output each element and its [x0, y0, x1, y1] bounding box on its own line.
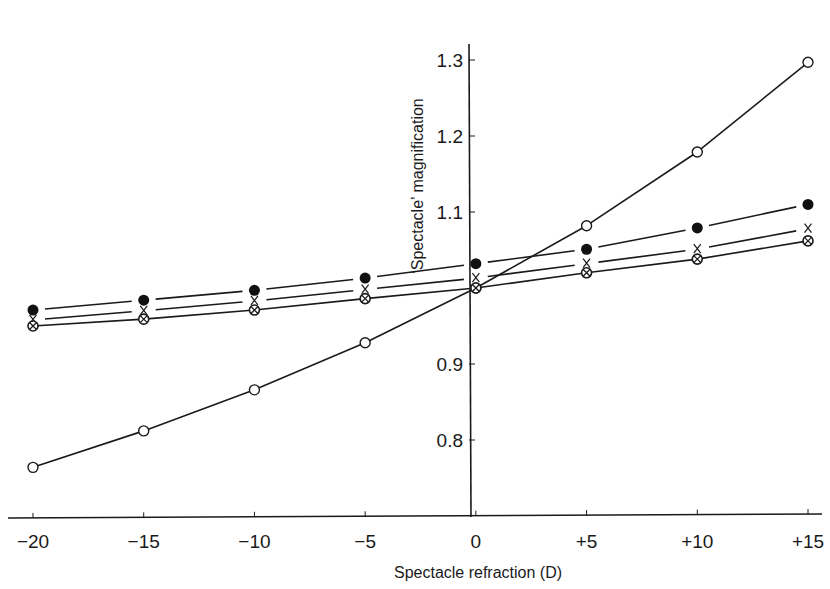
y-tick-label: 1.2: [437, 126, 463, 147]
filled-circle-marker: [28, 305, 39, 316]
open-circle-marker: [360, 338, 370, 348]
series-line-segment: [45, 312, 132, 319]
y-tick-label: 0.8: [437, 430, 463, 451]
y-tick-label: 1.3: [437, 50, 463, 71]
x-marker: [251, 296, 258, 305]
series-line-segment: [697, 62, 808, 152]
filled-circle-marker: [470, 258, 481, 269]
series-line-segment: [697, 241, 808, 259]
series-line-segment: [156, 302, 243, 310]
series-line-segment: [587, 152, 698, 226]
x-marker: [805, 224, 812, 233]
x-marker: [583, 259, 590, 268]
open-circle-marker: [28, 462, 38, 472]
y-axis-title: ‘Spectacle’ magnification: [409, 98, 426, 274]
series-line-segment: [598, 230, 685, 247]
series-line-segment: [45, 301, 132, 309]
series-line-segment: [709, 207, 796, 226]
x-tick-label: +15: [792, 531, 824, 552]
open-circle-marker: [803, 57, 813, 67]
series-line-segment: [365, 288, 476, 343]
x-tick-label: 0: [471, 531, 482, 552]
x-marker: [472, 273, 479, 282]
y-tick-label: 1.1: [437, 202, 463, 223]
series-line-segment: [254, 299, 365, 310]
y-tick-label: 0.9: [437, 354, 463, 375]
series-line-segment: [33, 319, 144, 326]
x-tick-label: −20: [17, 531, 49, 552]
open-circle-marker: [139, 426, 149, 436]
x-tick-label: −10: [238, 531, 270, 552]
open-circle-marker: [692, 147, 702, 157]
series-line-segment: [33, 431, 144, 467]
series-line-segment: [488, 251, 575, 262]
x-tick-label: +10: [681, 531, 713, 552]
x-axis-line: [8, 514, 822, 518]
filled-circle-marker: [692, 222, 703, 233]
series-line-segment: [488, 265, 575, 276]
series-line-segment: [476, 273, 587, 288]
y-axis-line: [469, 44, 471, 517]
series-line-segment: [266, 291, 353, 300]
filled-circle-marker: [581, 244, 592, 255]
x-tick-label: −5: [354, 531, 376, 552]
series-line-segment: [144, 390, 255, 431]
series-line-segment: [254, 343, 365, 390]
x-marker: [362, 285, 369, 294]
filled-circle-marker: [249, 285, 260, 296]
series-line-segment: [156, 291, 243, 299]
series-line-segment: [377, 279, 464, 288]
x-axis-title: Spectacle refraction (D): [394, 564, 562, 581]
series-line-segment: [266, 279, 353, 289]
filled-circle-marker: [360, 273, 371, 284]
series-line-segment: [144, 310, 255, 319]
series-line-segment: [598, 251, 685, 262]
open-circle-marker: [249, 385, 259, 395]
x-tick-label: −15: [128, 531, 160, 552]
filled-circle-marker: [803, 199, 814, 210]
x-tick-label: +5: [576, 531, 598, 552]
open-circle-marker: [582, 221, 592, 231]
chart: −20−15−10−50+5+10+150.80.91.11.21.3Spect…: [0, 0, 830, 589]
filled-circle-marker: [138, 295, 149, 306]
x-marker: [694, 244, 701, 253]
